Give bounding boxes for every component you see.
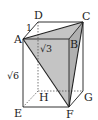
vertex-label-d: D xyxy=(34,9,43,22)
vertex-label-a: A xyxy=(13,33,23,46)
vertex-label-f: F xyxy=(66,108,74,120)
edge-he xyxy=(23,91,38,107)
prism-diagram: D C A B H G E F 1 √3 √6 xyxy=(0,0,98,120)
vertex-label-e: E xyxy=(14,107,22,120)
edge-label-ae: √6 xyxy=(7,70,19,81)
edge-label-ad: 1 xyxy=(26,22,32,33)
vertex-label-h: H xyxy=(39,91,49,104)
vertex-label-g: G xyxy=(84,91,93,104)
vertex-label-b: B xyxy=(70,38,78,51)
edge-label-ab: √3 xyxy=(40,43,52,54)
vertex-label-c: C xyxy=(82,10,90,23)
